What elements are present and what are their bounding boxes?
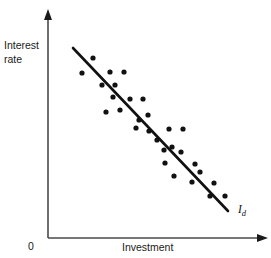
x-axis-label: Investment [122, 241, 173, 254]
scatter-point [107, 69, 112, 74]
scatter-point [166, 126, 171, 131]
scatter-point [121, 69, 126, 74]
scatter-point [192, 161, 197, 166]
scatter-point [99, 82, 104, 87]
scatter-point [112, 82, 117, 87]
scatter-point [110, 94, 115, 99]
scatter-point [103, 109, 108, 114]
scatter-point [207, 193, 212, 198]
scatter-point [154, 137, 159, 142]
scatter-point [171, 173, 176, 178]
scatter-point [136, 117, 141, 122]
y-axis-label: Interest rate [4, 38, 46, 66]
y-axis-label-line2: rate [4, 52, 46, 66]
scatter-point [162, 160, 167, 165]
scatter-point [146, 128, 151, 133]
scatter-point [197, 169, 202, 174]
scatter-point [145, 112, 150, 117]
scatter-point [140, 96, 145, 101]
scatter-point [117, 107, 122, 112]
scatter-point [222, 193, 227, 198]
scatter-point [189, 179, 194, 184]
demand-curve-label-subscript: d [242, 208, 246, 218]
scatter-point [178, 149, 183, 154]
investment-demand-figure: Interest rate Investment 0 Id [0, 0, 271, 258]
y-axis-label-line1: Interest [4, 38, 46, 52]
scatter-point [161, 147, 166, 152]
demand-curve-label: Id [238, 203, 246, 218]
scatter-point [180, 126, 185, 131]
scatter-point [169, 144, 174, 149]
scatter-point [133, 125, 138, 130]
scatter-point [90, 55, 95, 60]
origin-label: 0 [28, 240, 34, 253]
scatter-point [211, 180, 216, 185]
scatter-point [127, 96, 132, 101]
scatter-point [79, 70, 84, 75]
